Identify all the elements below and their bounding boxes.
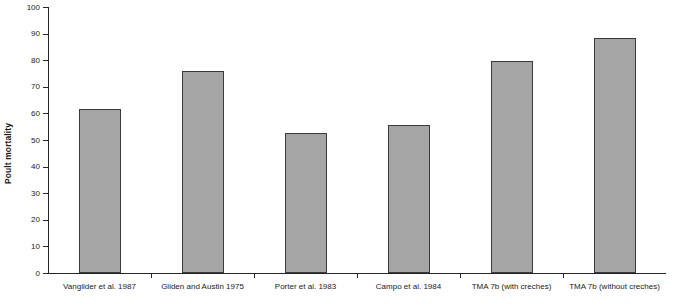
- x-category-label-3: Campo et al. 1984: [376, 283, 441, 291]
- y-tick-80: 80: [43, 60, 48, 61]
- y-tick-label-60: 60: [31, 110, 40, 118]
- y-tick-label-40: 40: [31, 163, 40, 171]
- bar-0[interactable]: [79, 109, 121, 273]
- y-tick-label-0: 0: [36, 270, 40, 278]
- x-category-label-2: Porter et al. 1983: [275, 283, 336, 291]
- y-tick-20: 20: [43, 220, 48, 221]
- bar-5[interactable]: [594, 38, 636, 273]
- bar-1[interactable]: [182, 71, 224, 273]
- y-tick-50: 50: [43, 140, 48, 141]
- y-tick-label-90: 90: [31, 30, 40, 38]
- y-tick-100: 100: [43, 7, 48, 8]
- y-tick-40: 40: [43, 167, 48, 168]
- y-tick-70: 70: [43, 87, 48, 88]
- bar-4[interactable]: [491, 61, 533, 273]
- plot-area: 0102030405060708090100: [48, 7, 666, 273]
- y-tick-label-70: 70: [31, 83, 40, 91]
- y-tick-0: 0: [43, 273, 48, 274]
- bar-3[interactable]: [388, 125, 430, 273]
- x-category-label-0: Vangilder et al. 1987: [63, 283, 136, 291]
- y-tick-60: 60: [43, 113, 48, 114]
- y-tick-90: 90: [43, 34, 48, 35]
- y-axis-title: Poult mortality: [0, 0, 16, 307]
- x-tick-3: [460, 273, 461, 278]
- y-tick-label-30: 30: [31, 190, 40, 198]
- y-tick-30: 30: [43, 193, 48, 194]
- x-tick-2: [357, 273, 358, 278]
- x-tick-1: [254, 273, 255, 278]
- y-tick-label-100: 100: [27, 4, 40, 12]
- bar-chart: Poult mortality 0102030405060708090100 V…: [0, 0, 679, 307]
- x-category-label-5: TMA 7b (without creches): [569, 283, 660, 291]
- x-category-label-4: TMA 7b (with creches): [472, 283, 552, 291]
- y-tick-label-20: 20: [31, 216, 40, 224]
- y-tick-label-80: 80: [31, 57, 40, 65]
- x-tick-4: [563, 273, 564, 278]
- x-tick-0: [151, 273, 152, 278]
- bar-2[interactable]: [285, 133, 327, 273]
- x-category-label-1: Gliden and Austin 1975: [161, 283, 244, 291]
- y-axis-line: [48, 7, 49, 273]
- y-tick-10: 10: [43, 246, 48, 247]
- y-tick-label-10: 10: [31, 243, 40, 251]
- y-tick-label-50: 50: [31, 137, 40, 145]
